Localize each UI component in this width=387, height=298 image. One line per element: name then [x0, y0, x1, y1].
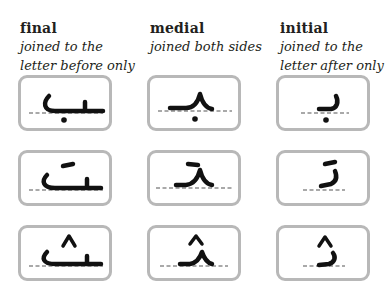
card-baa-initial — [276, 75, 370, 131]
column-description-medial: joined both sides — [150, 37, 275, 56]
description-line: letter before only — [20, 56, 145, 75]
card-baa-medial — [147, 75, 241, 131]
thaa-initial-glyph-icon — [279, 228, 367, 278]
thaa-final-glyph-icon — [21, 228, 109, 278]
taa-medial-glyph-icon — [150, 153, 238, 203]
description-line: joined to the — [280, 37, 387, 56]
column-title-medial: medial — [150, 20, 275, 36]
baa-initial-glyph-icon — [279, 78, 367, 128]
card-taa-final — [18, 150, 112, 206]
taa-final-glyph-icon — [21, 153, 109, 203]
baa-final-glyph-icon — [21, 78, 109, 128]
column-title-final: final — [20, 20, 145, 36]
baa-medial-glyph-icon — [150, 78, 238, 128]
description-line: letter after only — [280, 56, 387, 75]
column-header-initial: initial joined to the letter after only — [280, 20, 387, 75]
taa-initial-glyph-icon — [279, 153, 367, 203]
card-taa-initial — [276, 150, 370, 206]
column-description-initial: joined to the letter after only — [280, 37, 387, 75]
card-thaa-medial — [147, 225, 241, 281]
description-line: joined both sides — [150, 37, 275, 56]
column-header-final: final joined to the letter before only — [20, 20, 145, 75]
column-header-medial: medial joined both sides — [150, 20, 275, 56]
card-baa-final — [18, 75, 112, 131]
description-line: joined to the — [20, 37, 145, 56]
card-taa-medial — [147, 150, 241, 206]
card-thaa-initial — [276, 225, 370, 281]
thaa-medial-glyph-icon — [150, 228, 238, 278]
column-description-final: joined to the letter before only — [20, 37, 145, 75]
card-thaa-final — [18, 225, 112, 281]
column-title-initial: initial — [280, 20, 387, 36]
